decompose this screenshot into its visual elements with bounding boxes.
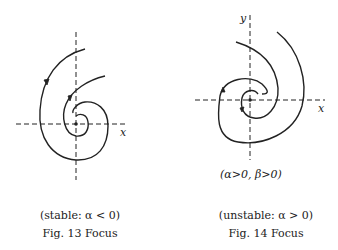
fig14-outer-trajectory — [218, 32, 303, 143]
fig14-y-label: y — [240, 12, 246, 25]
fig14-caption: Fig. 14 Focus — [214, 227, 318, 241]
fig13-outer-trajectory — [40, 49, 108, 160]
fig13-caption: Fig. 13 Focus — [30, 227, 130, 241]
fig14-inner-trajectory — [236, 42, 278, 118]
fig13-origin-point — [74, 122, 78, 126]
fig14-diagram — [195, 15, 325, 160]
fig13-subtitle: (stable: α < 0) — [30, 209, 130, 223]
fig14-subtitle: (unstable: α > 0) — [214, 209, 318, 223]
fig13-x-label: x — [120, 126, 126, 139]
fig14-origin-point — [248, 98, 252, 102]
fig14-x-label: x — [318, 102, 324, 115]
fig14-condition: (α>0, β>0) — [220, 168, 282, 181]
fig13-diagram — [16, 32, 126, 180]
